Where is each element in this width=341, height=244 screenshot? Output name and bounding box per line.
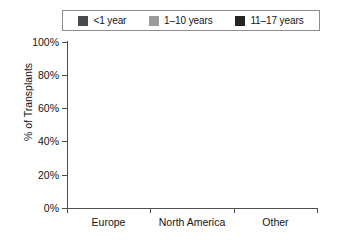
legend-swatch-icon-2 (235, 16, 245, 26)
y-tick-label-80: 80% (15, 70, 59, 80)
x-tick-label-other: Other (234, 216, 317, 228)
y-axis-title: % of Transplants (22, 27, 34, 177)
legend-label-1: 1–10 years (164, 16, 212, 26)
chart-figure: <1 year 1–10 years 11–17 years % of Tran… (0, 0, 341, 244)
y-tick-label-100: 100% (15, 37, 59, 47)
legend-label-2: 11–17 years (250, 16, 303, 26)
x-axis-line (67, 208, 318, 209)
x-tick-mark-1 (150, 208, 151, 213)
x-tick-mark-0 (67, 208, 68, 213)
y-tick-label-0: 0% (15, 203, 59, 213)
x-tick-mark-2 (234, 208, 235, 213)
y-tick-label-20: 20% (15, 170, 59, 180)
legend-entry-2: 11–17 years (235, 16, 303, 26)
legend-swatch-icon-0 (78, 16, 88, 26)
x-tick-label-europe: Europe (67, 216, 150, 228)
y-tick-label-60: 60% (15, 103, 59, 113)
x-tick-label-north-america: North America (150, 216, 234, 228)
chart-legend: <1 year 1–10 years 11–17 years (62, 10, 320, 31)
legend-entry-1: 1–10 years (149, 16, 212, 26)
legend-swatch-icon-1 (149, 16, 159, 26)
legend-label-0: <1 year (93, 16, 126, 26)
y-tick-label-40: 40% (15, 136, 59, 146)
plot-area (67, 42, 317, 208)
legend-entry-0: <1 year (78, 16, 126, 26)
x-tick-mark-3 (317, 208, 318, 213)
